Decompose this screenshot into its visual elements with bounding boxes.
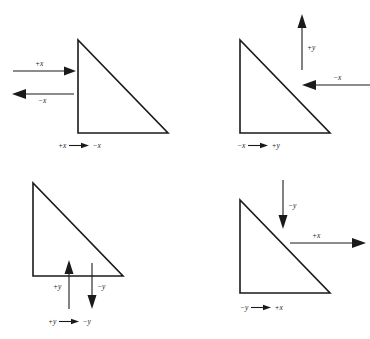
caption-arrow-icon [248,142,268,149]
caption-to: +x [274,304,282,312]
caption-arrow-icon [69,142,89,149]
arrow-label-plus-x: +x [312,232,320,240]
caption-from: +x [58,142,66,150]
caption-from: −y [240,304,248,312]
caption-to: +y [271,142,279,150]
arrow-plus-x [290,238,366,248]
triangle-shape [240,40,330,133]
panel-bottom-left: +y −y +y −y [0,170,185,339]
triangle-shape [33,183,123,276]
arrow-label-plus-y: +y [307,44,315,52]
panel-top-right: +y −x −x +y [185,0,370,169]
arrow-label-minus-x: −x [38,97,46,105]
arrow-minus-y [279,180,288,229]
arrow-label-plus-x: +x [35,60,43,68]
panel-top-left: +x −x +x −x [0,0,185,169]
figure-diagram: +x −x +x −x +y −x −x [0,0,370,339]
triangle-shape [240,200,330,293]
caption-to: −x [92,142,100,150]
arrow-label-minus-x: −x [333,74,341,82]
arrow-label-minus-y: −y [97,283,105,291]
arrow-minus-y [88,263,97,309]
caption-bottom-right: −y +x [240,304,283,312]
arrow-label-plus-y: +y [53,283,61,291]
arrow-plus-y [65,260,74,309]
caption-arrow-icon [59,318,79,325]
arrow-plus-y [298,14,307,70]
caption-top-right: −x +y [237,142,280,150]
caption-from: −x [237,142,245,150]
arrow-plus-x [13,67,76,76]
caption-bottom-left: +y −y [48,318,91,326]
triangle-shape [78,40,168,133]
arrow-label-minus-y: −y [288,202,296,210]
caption-to: −y [82,318,90,326]
caption-top-left: +x −x [58,142,101,150]
caption-arrow-icon [251,304,271,311]
panel-bottom-right: −y +x −y +x [185,170,370,339]
caption-from: +y [48,318,56,326]
